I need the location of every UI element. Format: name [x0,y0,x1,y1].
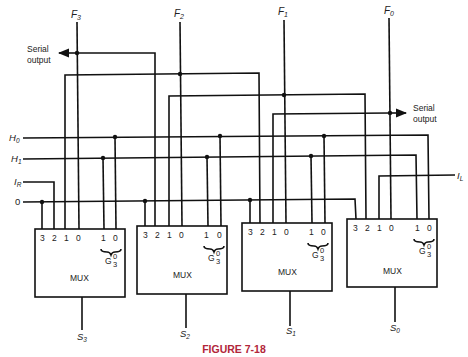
serial-right-label-2: output [413,114,437,124]
s1-label: S1 [286,325,296,337]
h0-label: H0 [9,132,20,144]
mux0: 3 2 1 0 1 0 G 0 3 MUX [353,223,432,276]
svg-text:3: 3 [113,260,117,269]
svg-text:0: 0 [321,227,326,237]
svg-text:1: 1 [101,233,106,243]
f2-label: F2 [174,8,184,20]
il-label: IL [457,170,464,182]
svg-text:G: G [419,246,426,256]
svg-text:1: 1 [204,230,209,240]
mux1: 3 2 1 0 1 0 G 0 3 MUX [248,227,326,277]
svg-text:1: 1 [64,233,69,243]
svg-text:0: 0 [76,233,81,243]
f1-label: F1 [278,6,288,18]
svg-text:2: 2 [155,230,160,240]
h1-label: H1 [11,153,22,165]
svg-text:G: G [208,253,215,263]
svg-text:G: G [105,256,112,266]
mux3: 3 2 1 0 1 0 G 0 3 MUX [40,233,118,283]
f0-label: F0 [384,5,394,17]
svg-text:2: 2 [260,227,265,237]
svg-text:3: 3 [427,250,431,259]
svg-text:0: 0 [389,223,394,233]
svg-text:0: 0 [217,230,222,240]
svg-text:2: 2 [365,223,370,233]
figure-caption: FIGURE 7-18 [202,343,266,355]
shift-register-diagram: F3 F2 F1 F0 Serial output Serial output … [0,0,468,357]
svg-text:3: 3 [40,233,45,243]
mux2: 3 2 1 0 1 0 G 0 3 MUX [143,230,222,280]
f0-loop-wire [273,113,390,223]
s0-label: S0 [390,322,400,334]
svg-text:1: 1 [377,223,382,233]
svg-text:3: 3 [248,227,253,237]
zero-label: 0 [15,196,20,207]
svg-text:MUX: MUX [70,273,89,283]
ir-wire [23,182,54,229]
svg-text:3: 3 [216,257,220,266]
svg-text:1: 1 [415,223,420,233]
f0-wire [389,18,391,219]
f3-label: F3 [71,9,81,21]
serial-left-label-1: Serial [27,44,49,54]
f2-wire [180,22,182,226]
svg-text:1: 1 [272,227,277,237]
s2-label: S2 [180,328,190,340]
serial-right-label-1: Serial [413,103,435,113]
svg-text:G: G [312,250,319,260]
svg-text:0: 0 [427,223,432,233]
svg-text:1: 1 [167,230,172,240]
f2-loop-wire [65,73,260,229]
svg-text:MUX: MUX [278,267,297,277]
svg-text:3: 3 [143,230,148,240]
svg-text:0: 0 [113,233,118,243]
svg-text:2: 2 [52,233,57,243]
svg-text:MUX: MUX [383,266,402,276]
svg-text:0: 0 [284,227,289,237]
h0-wire [23,135,429,219]
ir-label: IR [14,176,22,188]
svg-text:1: 1 [309,227,314,237]
svg-text:MUX: MUX [173,270,192,280]
s3-label: S3 [77,331,87,343]
svg-text:3: 3 [320,254,324,263]
zero-wire [23,199,356,219]
serial-left-label-2: output [27,55,51,65]
svg-text:0: 0 [179,230,184,240]
f1-wire [284,20,286,223]
svg-text:3: 3 [353,223,358,233]
